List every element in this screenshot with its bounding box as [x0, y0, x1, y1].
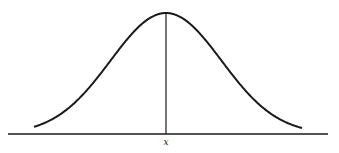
mean-label: x	[163, 137, 168, 147]
bell-curve	[34, 13, 302, 128]
bell-curve-diagram	[0, 0, 339, 153]
